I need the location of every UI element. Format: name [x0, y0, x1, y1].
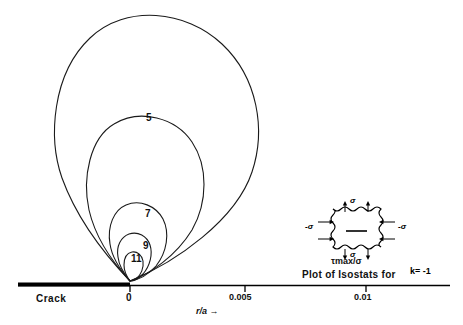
- inset-sigma-top-label: σ: [350, 196, 355, 205]
- inset-sigma-left-label: -σ: [305, 222, 313, 231]
- contour-label-11: 11: [131, 253, 142, 264]
- contour-label-7: 7: [145, 208, 151, 219]
- isostat-contour-7: [109, 203, 166, 281]
- contour-label-5: 5: [146, 112, 152, 123]
- crack-label: Crack: [36, 293, 66, 304]
- inset-arrow-bottom-right: [366, 249, 370, 260]
- inset-sigma-right-label: -σ: [398, 222, 406, 231]
- quantity-label: τmax/σ: [331, 256, 362, 266]
- inset-arrow-top-left: [343, 201, 347, 212]
- x-tick-label-0005: 0.005: [229, 292, 252, 302]
- isostat-contour-outer: [55, 15, 259, 281]
- inset-loading-diagram: [318, 201, 395, 260]
- inset-element-body: [331, 207, 383, 249]
- x-tick-label-001: 0.01: [354, 292, 372, 302]
- isostat-contour-5: [87, 116, 204, 281]
- figure-caption: Plot of Isostats for: [302, 269, 396, 280]
- inset-arrow-right-upper: [379, 220, 395, 224]
- x-tick-label-0: 0: [126, 292, 132, 303]
- x-axis-label: r/a →: [196, 306, 219, 316]
- contour-label-9: 9: [143, 240, 149, 251]
- k-value-label: k= -1: [410, 266, 431, 276]
